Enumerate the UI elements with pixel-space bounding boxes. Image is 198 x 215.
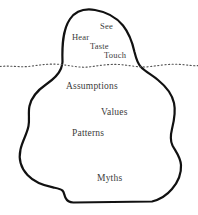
label-see: See [100,22,113,31]
label-myths: Myths [97,174,122,184]
label-touch: Touch [104,51,126,60]
label-assumptions: Assumptions [66,82,118,92]
iceberg-diagram: See Hear Taste Touch Assumptions Values … [0,0,198,215]
label-values: Values [101,108,128,118]
label-patterns: Patterns [72,129,104,139]
label-hear: Hear [72,33,89,42]
